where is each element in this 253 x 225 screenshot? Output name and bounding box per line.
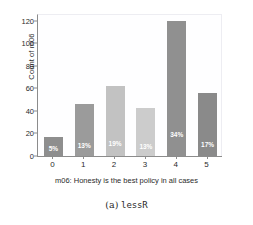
- figure-container: Count of m06 020406080100120 5%13%19%13%…: [0, 0, 253, 225]
- y-tick-label: 100: [21, 39, 34, 48]
- x-axis-label: m06: Honesty is the best policy in all c…: [0, 176, 253, 185]
- bar-value-label: 17%: [198, 141, 217, 148]
- bar[interactable]: 5%: [44, 137, 63, 156]
- x-tick-mark: [207, 156, 208, 159]
- y-tick-label: 60: [26, 84, 34, 93]
- x-axis-ticks: 012345: [37, 156, 222, 172]
- y-tick-label: 80: [26, 61, 34, 70]
- bar-value-label: 13%: [75, 142, 94, 149]
- bar[interactable]: 13%: [75, 104, 94, 156]
- x-tick-label: 5: [204, 160, 208, 169]
- x-tick-mark: [176, 156, 177, 159]
- x-tick-mark: [114, 156, 115, 159]
- x-tick-mark: [83, 156, 84, 159]
- bar[interactable]: 17%: [198, 93, 217, 156]
- bar-chart: Count of m06 020406080100120 5%13%19%13%…: [0, 0, 253, 196]
- plot-area: 5%13%19%13%34%17%: [37, 14, 222, 156]
- x-tick-label: 1: [81, 160, 85, 169]
- x-tick-label: 3: [143, 160, 147, 169]
- x-tick-mark: [145, 156, 146, 159]
- bar[interactable]: 34%: [167, 21, 186, 156]
- x-tick-label: 0: [50, 160, 54, 169]
- bar[interactable]: 19%: [106, 86, 125, 156]
- y-tick-label: 20: [26, 129, 34, 138]
- y-tick-label: 40: [26, 106, 34, 115]
- bar-value-label: 5%: [44, 145, 63, 152]
- bar-value-label: 34%: [167, 131, 186, 138]
- y-axis-ticks: 020406080100120: [14, 14, 34, 156]
- y-tick-label: 120: [21, 16, 34, 25]
- bar-series: 5%13%19%13%34%17%: [38, 15, 221, 156]
- bar-value-label: 19%: [106, 140, 125, 147]
- x-tick-mark: [52, 156, 53, 159]
- bar[interactable]: 13%: [136, 108, 155, 156]
- figure-caption: (a) lessR: [0, 199, 253, 210]
- bar-value-label: 13%: [136, 143, 155, 150]
- x-tick-label: 4: [174, 160, 178, 169]
- caption-tag: (a): [105, 199, 118, 210]
- caption-name: lessR: [121, 200, 148, 210]
- x-tick-label: 2: [112, 160, 116, 169]
